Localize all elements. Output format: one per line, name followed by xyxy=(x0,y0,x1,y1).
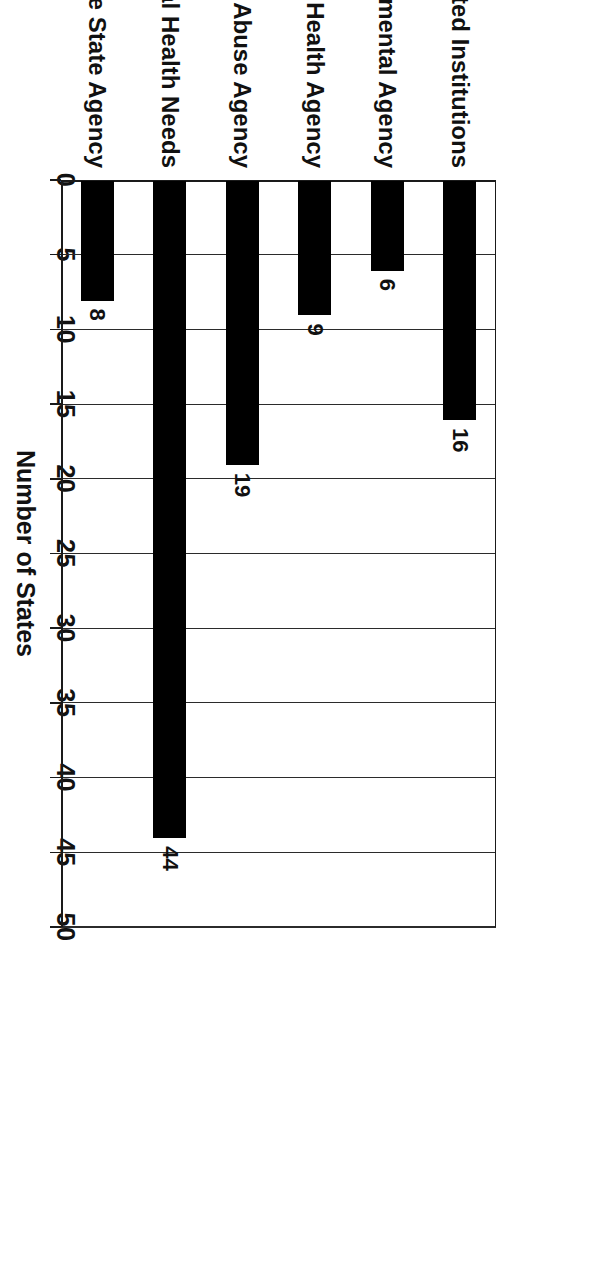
gridline xyxy=(61,852,496,853)
gridline xyxy=(61,254,496,255)
category-axis-line xyxy=(61,180,63,927)
axis-tick xyxy=(50,627,61,629)
axis-tick xyxy=(50,702,61,704)
bar xyxy=(153,181,186,838)
value-axis-baseline xyxy=(61,180,496,182)
chart-figure: 05101520253035404550 Number of States SH… xyxy=(0,0,593,1276)
bar xyxy=(225,181,258,465)
axis-tick xyxy=(50,254,61,256)
gridline xyxy=(61,329,496,330)
gridline xyxy=(61,777,496,778)
category-label-text: Medicaid Single State Agency xyxy=(83,0,111,168)
axis-tick xyxy=(50,478,61,480)
bar xyxy=(370,181,403,271)
bar-value-label: 19 xyxy=(229,473,255,497)
bar-value-label: 9 xyxy=(301,323,327,335)
axis-tick xyxy=(50,777,61,779)
category-label-text: Substance Abuse Agency xyxy=(228,0,256,168)
axis-tick xyxy=(50,852,61,854)
bar xyxy=(80,181,113,301)
axis-tick xyxy=(50,403,61,405)
gridline xyxy=(61,702,496,703)
plot-area: 166919448 xyxy=(61,180,496,927)
bar-value-label: 16 xyxy=(446,428,472,452)
category-label-text: Mental Health Agency xyxy=(300,0,328,168)
category-label-text: Services to Children with Special Health… xyxy=(155,0,183,168)
category-label-text: SHA-Operated Institutions xyxy=(445,0,473,168)
axis-tick xyxy=(50,553,61,555)
category-label-text: Lead Environmental Agency xyxy=(373,0,401,168)
gridline xyxy=(61,926,496,928)
axis-tick xyxy=(50,179,61,181)
axis-tick xyxy=(50,926,61,928)
value-axis-title: Number of States xyxy=(11,180,40,927)
gridline xyxy=(61,553,496,554)
axis-tick xyxy=(50,329,61,331)
bar-value-label: 8 xyxy=(84,309,110,321)
bar xyxy=(298,181,331,315)
gridline xyxy=(61,478,496,479)
bar-value-label: 44 xyxy=(156,846,182,870)
gridline xyxy=(61,628,496,629)
rotated-chart-stage: 05101520253035404550 Number of States SH… xyxy=(62,58,532,1218)
bar xyxy=(443,181,476,420)
plot-top-border xyxy=(494,180,495,927)
bar-value-label: 6 xyxy=(374,279,400,291)
gridline xyxy=(61,404,496,405)
